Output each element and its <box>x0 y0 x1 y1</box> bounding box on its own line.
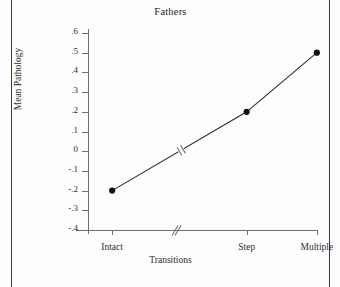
y-tick: -.4 <box>82 230 88 231</box>
x-tick <box>247 230 248 235</box>
y-tick-label: .6 <box>71 26 78 36</box>
figure-page: Fathers Mean Pathology .6.5.4.3.2.10-.1-… <box>0 0 340 287</box>
x-tick-label: Intact <box>101 242 123 252</box>
y-tick-label: -.2 <box>68 184 78 194</box>
y-tick-label: .1 <box>71 125 78 135</box>
chart-title: Fathers <box>12 6 329 17</box>
data-point <box>244 109 250 115</box>
line-break-icon <box>177 145 185 155</box>
data-point <box>314 50 320 56</box>
y-tick-label: 0 <box>74 144 79 154</box>
y-axis-title: Mean Pathology <box>13 19 23 139</box>
y-tick-label: -.3 <box>68 203 78 213</box>
x-tick-label: Step <box>238 242 255 252</box>
y-tick-label: .3 <box>71 85 78 95</box>
data-series <box>88 33 318 230</box>
y-tick-label: -.4 <box>68 223 78 233</box>
x-axis-title: Transitions <box>12 255 329 265</box>
y-tick-label: .5 <box>71 46 78 56</box>
y-tick-label: .2 <box>71 105 78 115</box>
x-tick <box>112 230 113 235</box>
plot-area: .6.5.4.3.2.10-.1-.2-.3-.4 IntactStepMult… <box>88 33 318 230</box>
x-tick <box>317 230 318 235</box>
x-tick-label: Multiple <box>300 242 333 252</box>
chart-figure: Fathers Mean Pathology .6.5.4.3.2.10-.1-… <box>12 0 329 287</box>
y-tick-label: .4 <box>71 65 78 75</box>
data-point <box>109 188 115 194</box>
y-tick-label: -.1 <box>68 164 78 174</box>
